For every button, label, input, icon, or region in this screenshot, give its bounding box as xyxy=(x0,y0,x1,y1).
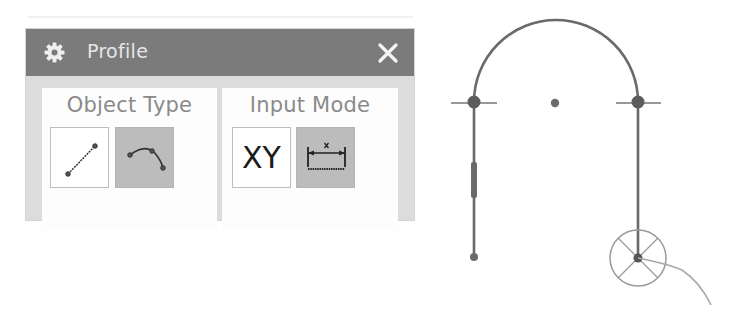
sketch-arc[interactable] xyxy=(474,20,638,102)
cursor-trail xyxy=(638,258,711,305)
sketch-canvas[interactable] xyxy=(0,0,730,315)
left-line-midpoint-marker xyxy=(471,162,477,198)
right-arc-endpoint[interactable] xyxy=(632,96,645,109)
left-arc-endpoint[interactable] xyxy=(468,96,481,109)
left-line-end-point[interactable] xyxy=(470,253,478,261)
arc-center-point[interactable] xyxy=(551,99,559,107)
